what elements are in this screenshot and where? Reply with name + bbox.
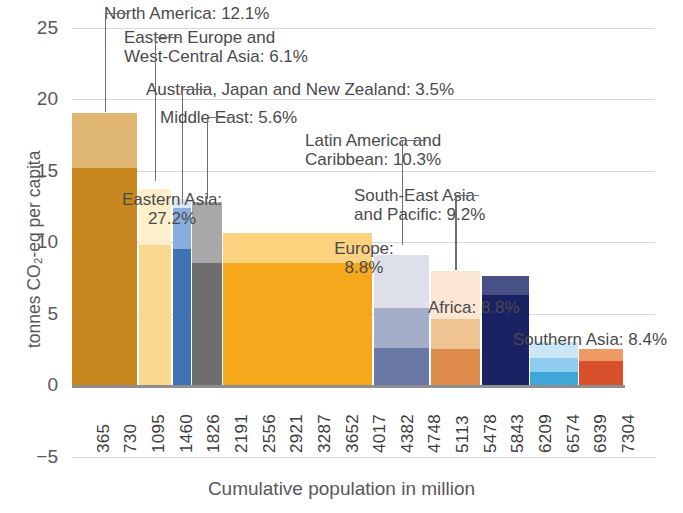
bar-segment xyxy=(530,372,577,385)
leader-hook xyxy=(105,13,129,14)
y-tick-label: 25 xyxy=(14,18,58,37)
x-tick-label: 3652 xyxy=(343,414,363,453)
x-tick-label: 2556 xyxy=(260,414,280,453)
bar-southern-asia[interactable] xyxy=(579,349,623,385)
x-tick-label: 2921 xyxy=(287,414,307,453)
x-tick-label: 6209 xyxy=(536,414,556,453)
leader-hook xyxy=(455,195,479,196)
x-axis-title: Cumulative population in million xyxy=(0,478,683,500)
bar-segment xyxy=(374,308,429,348)
gridline--5 xyxy=(72,457,655,458)
annotation-north-america: North America: 12.1% xyxy=(104,4,269,23)
y-tick-label: 0 xyxy=(14,375,58,394)
bar-segment xyxy=(139,245,171,385)
bar-segment xyxy=(374,348,429,385)
x-axis-baseline xyxy=(72,385,625,388)
leader-line xyxy=(182,89,183,204)
bar-segment xyxy=(482,276,529,295)
x-tick-label: 4748 xyxy=(425,414,445,453)
y-tick-label: 15 xyxy=(14,161,58,180)
bar-segment xyxy=(223,263,372,385)
x-tick-label: 365 xyxy=(94,424,114,453)
bar-segment xyxy=(431,349,480,385)
x-tick-label: 6939 xyxy=(591,414,611,453)
x-tick-label: 3287 xyxy=(315,414,335,453)
leader-hook xyxy=(155,37,179,38)
x-tick-label: 730 xyxy=(121,424,141,453)
bar-segment xyxy=(173,249,191,385)
x-tick-label: 1095 xyxy=(149,414,169,453)
y-tick-label: −5 xyxy=(14,447,58,466)
leader-hook xyxy=(182,89,206,90)
leader-hook xyxy=(402,140,426,141)
leader-hook xyxy=(207,117,231,118)
annotation-africa: Africa: 8.8% xyxy=(428,298,520,317)
x-tick-label: 5478 xyxy=(481,414,501,453)
gridline-20 xyxy=(72,99,655,100)
x-tick-label: 4017 xyxy=(370,414,390,453)
x-tick-label: 1826 xyxy=(204,414,224,453)
x-tick-label: 2191 xyxy=(232,414,252,453)
bar-north-america[interactable] xyxy=(72,113,137,385)
x-tick-label: 5843 xyxy=(508,414,528,453)
annotation-south-east-asia: South-East Asia and Pacific: 9.2% xyxy=(354,186,485,224)
leader-line xyxy=(455,195,456,270)
leader-line xyxy=(105,13,106,112)
bar-segment xyxy=(530,358,577,372)
annotation-southern-asia: Southern Asia: 8.4% xyxy=(513,330,667,349)
x-tick-label: 1460 xyxy=(177,414,197,453)
bar-segment xyxy=(192,263,222,385)
y-tick-label: 10 xyxy=(14,232,58,251)
bar-segment xyxy=(72,113,137,167)
y-tick-label: 5 xyxy=(14,304,58,323)
annotation-eastern-asia: Eastern Asia: 27.2% xyxy=(122,190,222,228)
x-tick-label: 6574 xyxy=(564,414,584,453)
bar-south-east-asia-and-pacific[interactable] xyxy=(431,271,480,385)
x-tick-label: 4382 xyxy=(398,414,418,453)
leader-line xyxy=(207,117,208,199)
annotation-latin-america: Latin America and Caribbean: 10.3% xyxy=(305,131,441,169)
x-tick-label: 5113 xyxy=(453,415,473,453)
annotation-europe: Europe: 8.8% xyxy=(334,239,394,277)
annotation-eastern-europe: Eastern Europe and West-Central Asia: 6.… xyxy=(124,28,308,66)
bar-middle-east[interactable] xyxy=(192,202,222,385)
x-tick-label: 7304 xyxy=(619,414,639,453)
bar-segment xyxy=(579,361,623,385)
gridline-15 xyxy=(72,171,655,172)
y-tick-label: 20 xyxy=(14,89,58,108)
bar-segment xyxy=(579,349,623,360)
chart-root: tonnes CO₂-eq per capita 2520151050−5 36… xyxy=(0,0,683,513)
leader-line xyxy=(155,37,156,181)
bar-segment xyxy=(431,319,480,349)
